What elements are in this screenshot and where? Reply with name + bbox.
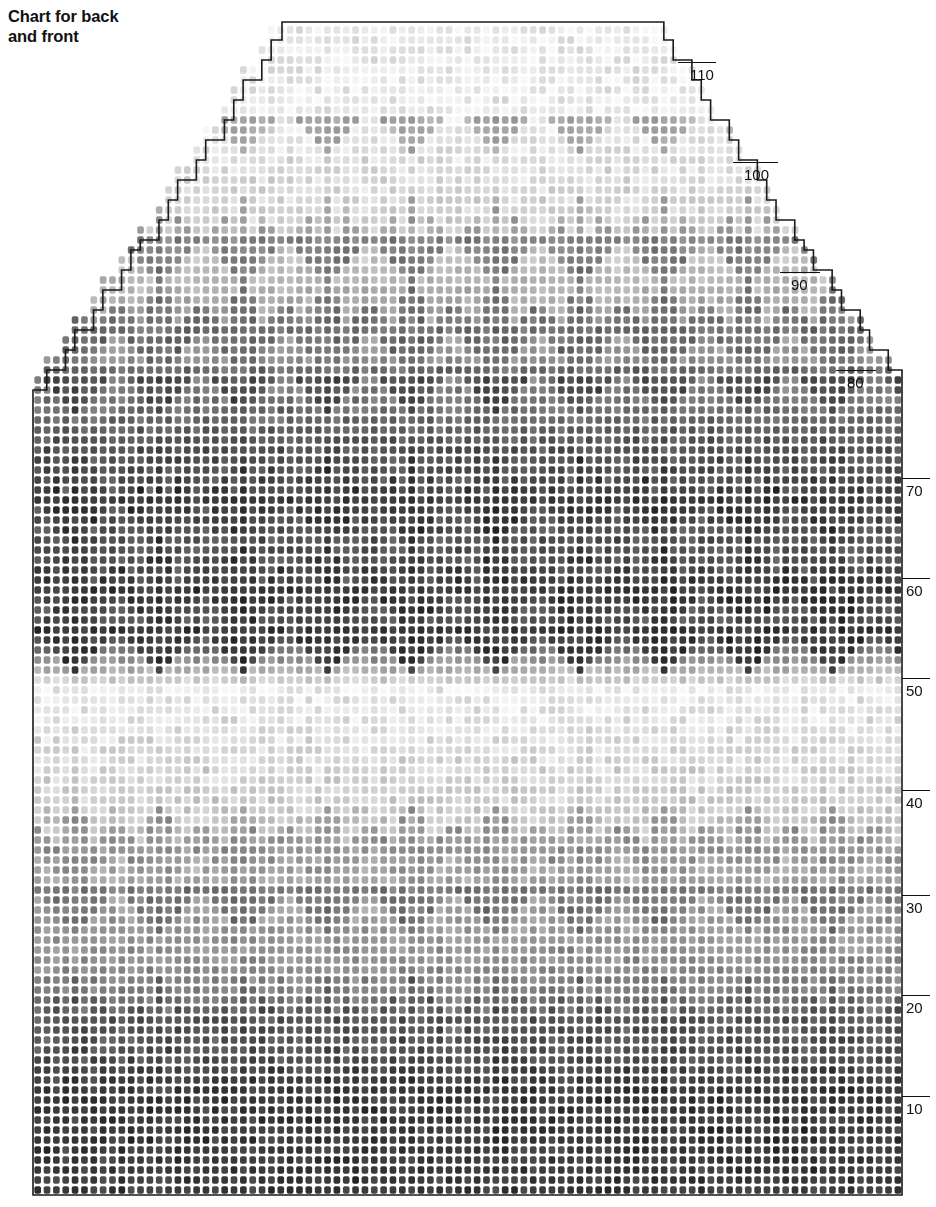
- row-label-10: 10: [906, 1101, 923, 1116]
- row-tick-10: [902, 1096, 930, 1097]
- row-label-40: 40: [906, 795, 923, 810]
- row-tick-90: [780, 272, 820, 273]
- row-tick-100: [733, 162, 778, 163]
- row-tick-50: [902, 678, 930, 679]
- row-label-90: 90: [791, 277, 808, 292]
- row-label-30: 30: [906, 900, 923, 915]
- row-label-110: 110: [690, 67, 714, 82]
- row-tick-20: [902, 995, 930, 996]
- row-label-70: 70: [906, 483, 923, 498]
- row-label-50: 50: [906, 683, 923, 698]
- row-label-60: 60: [906, 583, 923, 598]
- row-tick-110: [678, 62, 716, 63]
- row-label-100: 100: [744, 167, 769, 182]
- row-tick-70: [902, 478, 930, 479]
- row-tick-60: [902, 578, 930, 579]
- row-tick-80: [836, 370, 876, 371]
- chart-page: Chart for back and front 110100908070605…: [0, 0, 936, 1207]
- row-tick-40: [902, 790, 930, 791]
- row-label-20: 20: [906, 1000, 923, 1015]
- stitch-grid-canvas: [0, 0, 936, 1207]
- row-label-80: 80: [847, 375, 864, 390]
- row-tick-30: [902, 895, 930, 896]
- knitting-chart: 110100908070605040302010: [0, 0, 936, 1207]
